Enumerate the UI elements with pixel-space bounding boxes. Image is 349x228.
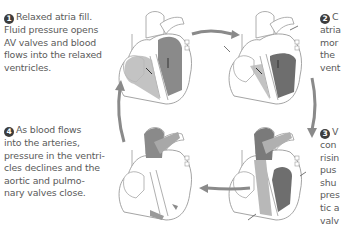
pressure-arrow-icon: [224, 46, 230, 52]
arrow-left-icon: [207, 188, 250, 189]
heart-step-4: [119, 128, 191, 221]
heart-step-1: [119, 12, 191, 105]
cardiac-cycle-diagram: [0, 0, 349, 228]
heart-step-3: [229, 128, 306, 221]
pressure-arrow-icon: [290, 26, 298, 30]
arrow-down-icon: [312, 78, 315, 130]
heart-step-2: [224, 12, 302, 105]
arrow-up-icon: [119, 88, 124, 142]
arrow-right-icon: [192, 31, 232, 34]
